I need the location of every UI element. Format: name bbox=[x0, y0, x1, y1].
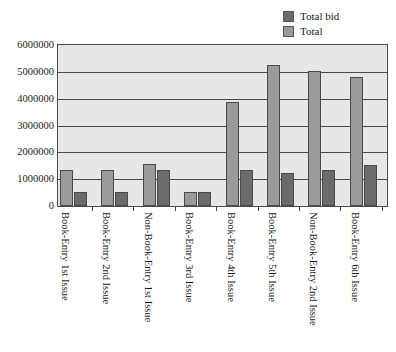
x-tick bbox=[299, 207, 300, 211]
x-tick-label: Book-Entry 6th Issue bbox=[349, 212, 362, 342]
x-tick bbox=[92, 207, 93, 211]
bars-layer bbox=[58, 45, 387, 206]
x-tick bbox=[340, 207, 341, 211]
x-tick bbox=[216, 207, 217, 211]
bar-total bbox=[267, 65, 280, 206]
bar-total bbox=[184, 192, 197, 206]
bar-group bbox=[141, 45, 182, 206]
x-tick-label: Book-Entry 2nd Issue bbox=[100, 212, 113, 342]
chart-legend: Total bid Total bbox=[283, 10, 393, 40]
bar-total-bid bbox=[115, 192, 128, 206]
y-axis: 6000000500000040000003000000200000010000… bbox=[0, 44, 54, 207]
bar-total-bid bbox=[240, 170, 253, 206]
x-tick-label: Book-Entry 3rd Issue bbox=[183, 212, 196, 342]
y-tick-label: 4000000 bbox=[2, 94, 54, 105]
x-tick-label: Non-Book-Entry 1st Issue bbox=[142, 212, 155, 342]
bar-total-bid bbox=[74, 192, 87, 206]
x-tick bbox=[382, 207, 383, 211]
plot-area bbox=[57, 44, 388, 207]
y-tick-label: 6000000 bbox=[2, 40, 54, 51]
y-tick-label: 3000000 bbox=[2, 121, 54, 132]
y-tick-label: 0 bbox=[2, 201, 54, 212]
legend-label-total-bid: Total bid bbox=[300, 11, 339, 22]
legend-swatch-total-bid bbox=[283, 11, 294, 22]
bar-group bbox=[224, 45, 265, 206]
bar-total-bid bbox=[198, 192, 211, 206]
bar-total-bid bbox=[322, 170, 335, 206]
legend-item-total-bid: Total bid bbox=[283, 10, 393, 23]
bar-group bbox=[58, 45, 99, 206]
x-tick bbox=[258, 207, 259, 211]
x-tick-label: Book-Entry 4th Issue bbox=[225, 212, 238, 342]
bar-group bbox=[348, 45, 388, 206]
bar-group bbox=[99, 45, 140, 206]
x-tick bbox=[175, 207, 176, 211]
legend-swatch-total bbox=[283, 26, 294, 37]
legend-item-total: Total bbox=[283, 25, 393, 38]
y-tick-label: 2000000 bbox=[2, 147, 54, 158]
bar-total-bid bbox=[157, 170, 170, 206]
bar-total bbox=[308, 71, 321, 206]
bar-total bbox=[226, 102, 239, 206]
x-axis-labels: Book-Entry 1st IssueBook-Entry 2nd Issue… bbox=[57, 212, 388, 350]
y-tick-label: 5000000 bbox=[2, 67, 54, 78]
x-tick-label: Book-Entry 5th Issue bbox=[266, 212, 279, 342]
legend-label-total: Total bbox=[300, 26, 322, 37]
bar-group bbox=[182, 45, 223, 206]
bar-group bbox=[265, 45, 306, 206]
bar-total-bid bbox=[281, 173, 294, 206]
y-tick-label: 1000000 bbox=[2, 174, 54, 185]
bar-chart: Total bid Total 600000050000004000000300… bbox=[0, 0, 396, 352]
bar-total bbox=[143, 164, 156, 206]
x-tick-label: Non-Book-Entry 2nd Issue bbox=[307, 212, 320, 342]
x-tick bbox=[133, 207, 134, 211]
bar-total bbox=[101, 170, 114, 206]
x-tick-label: Book-Entry 1st Issue bbox=[59, 212, 72, 342]
bar-total-bid bbox=[364, 165, 377, 206]
bar-total bbox=[350, 77, 363, 206]
bar-group bbox=[306, 45, 347, 206]
bar-total bbox=[60, 170, 73, 206]
